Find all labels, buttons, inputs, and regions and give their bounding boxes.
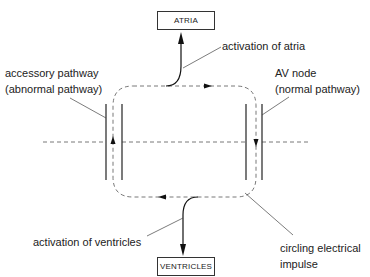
leader-activation-atria <box>183 47 221 68</box>
loop-arrow-left-icon <box>158 195 166 200</box>
label-circling-impulse: circling electrical <box>280 241 361 255</box>
arrow-down-icon <box>180 244 186 256</box>
leader-av-node <box>262 97 289 115</box>
leader-activation-ventricles <box>147 218 183 236</box>
loop-arrow-right-icon <box>204 84 212 89</box>
label-circling-impulse-2: impulse <box>280 257 318 271</box>
label-accessory-abnormal: (abnormal pathway) <box>5 82 102 96</box>
loop-arrow-down-icon <box>254 139 259 147</box>
atria-activation-arrow <box>166 42 181 86</box>
loop-arrow-up-icon <box>111 136 116 144</box>
circling-impulse-loop <box>113 86 256 197</box>
av-node-bars <box>246 104 262 180</box>
label-accessory-pathway: accessory pathway <box>5 66 99 80</box>
atria-box: ATRIA <box>157 11 215 30</box>
label-activation-atria: activation of atria <box>222 39 305 53</box>
label-activation-ventricles: activation of ventricles <box>33 235 141 249</box>
label-av-node-normal: (normal pathway) <box>275 82 360 96</box>
leader-accessory-pathway <box>70 98 106 118</box>
leader-circling-impulse <box>245 193 293 235</box>
ventricles-box: VENTRICLES <box>157 257 215 276</box>
label-av-node: AV node <box>275 66 316 80</box>
arrow-up-icon <box>178 32 184 44</box>
ventricles-activation-arrow <box>183 197 198 245</box>
